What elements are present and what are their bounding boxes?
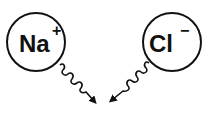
ion-diagram: Na + Cl − <box>0 0 209 119</box>
chloride-charge: − <box>180 22 189 39</box>
sodium-charge: + <box>52 22 61 39</box>
sodium-symbol: Na <box>19 30 50 57</box>
chloride-wavy-arrow <box>112 62 149 100</box>
chloride-symbol: Cl <box>149 30 173 57</box>
chloride-ion: Cl − <box>143 13 201 71</box>
sodium-ion: Na + <box>7 13 65 71</box>
sodium-wavy-arrow <box>60 64 94 101</box>
